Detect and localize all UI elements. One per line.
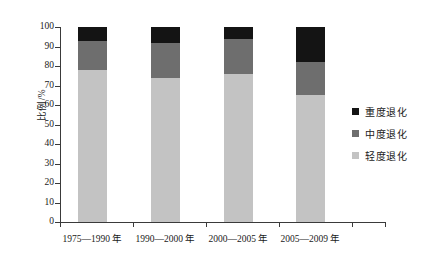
bar-column: [224, 27, 253, 222]
x-tick-mark: [279, 222, 280, 227]
bar-segment-severe: [151, 27, 180, 43]
y-tick-mark: [55, 183, 61, 184]
y-tick-label: 50: [14, 120, 54, 130]
legend-label: 轻度退化: [365, 148, 407, 163]
x-tick-mark: [385, 222, 386, 227]
y-tick-mark: [55, 27, 61, 28]
y-tick-mark: [55, 86, 61, 87]
bar-column: [151, 27, 180, 222]
bar-segment-severe: [224, 27, 253, 39]
y-tick-mark: [55, 105, 61, 106]
y-tick-mark: [55, 164, 61, 165]
y-tick-label: 90: [14, 42, 54, 52]
bar-segment-light: [78, 70, 107, 222]
legend-item: 中度退化: [352, 122, 407, 144]
bar-segment-light: [296, 95, 325, 222]
bar-segment-moderate: [296, 62, 325, 95]
x-axis-line: [60, 222, 385, 223]
y-tick-mark: [55, 144, 61, 145]
x-tick-mark: [206, 222, 207, 227]
bar-segment-moderate: [151, 43, 180, 78]
y-tick-mark: [55, 66, 61, 67]
bar-segment-moderate: [78, 41, 107, 70]
legend-swatch-icon: [352, 152, 359, 159]
y-tick-mark: [55, 47, 61, 48]
stacked-bar-chart: 比例/% 1009080706050403020100 1975—1990 年1…: [0, 0, 437, 266]
y-tick-label: 70: [14, 81, 54, 91]
y-tick-label: 30: [14, 159, 54, 169]
x-axis-label: 2005—2009 年: [256, 231, 366, 245]
y-tick-mark: [55, 203, 61, 204]
y-tick-mark: [55, 125, 61, 126]
legend-swatch-icon: [352, 130, 359, 137]
y-tick-label: 100: [14, 22, 54, 32]
legend-label: 重度退化: [365, 104, 407, 119]
y-tick-label: 80: [14, 61, 54, 71]
y-tick-label: 60: [14, 100, 54, 110]
bar-segment-severe: [78, 27, 107, 41]
x-tick-mark: [60, 222, 61, 227]
legend-label: 中度退化: [365, 126, 407, 141]
y-tick-label: 0: [14, 217, 54, 227]
bar-column: [78, 27, 107, 222]
x-tick-mark: [352, 222, 353, 227]
x-tick-mark: [133, 222, 134, 227]
bar-column: [296, 27, 325, 222]
legend-item: 重度退化: [352, 100, 407, 122]
chart-legend: 重度退化中度退化轻度退化: [352, 100, 407, 166]
legend-item: 轻度退化: [352, 144, 407, 166]
legend-swatch-icon: [352, 108, 359, 115]
bar-segment-severe: [296, 27, 325, 62]
bar-segment-moderate: [224, 39, 253, 74]
bar-segment-light: [151, 78, 180, 222]
y-tick-label: 10: [14, 198, 54, 208]
y-tick-label: 20: [14, 178, 54, 188]
y-tick-label: 40: [14, 139, 54, 149]
bar-segment-light: [224, 74, 253, 222]
